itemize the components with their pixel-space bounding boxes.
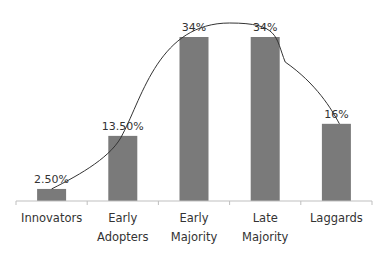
value-label: 34% — [253, 21, 277, 34]
bar-innovators — [37, 189, 66, 201]
adoption-bar-chart: 2.50%13.50%34%34%16% InnovatorsEarlyAdop… — [0, 0, 385, 254]
category-label: Late — [253, 211, 278, 225]
value-label: 2.50% — [34, 173, 69, 186]
bar-early-adopters — [108, 136, 137, 201]
category-label: Early — [179, 211, 208, 225]
category-label: Majority — [242, 230, 289, 244]
category-label: Majority — [171, 230, 218, 244]
value-label: 16% — [324, 108, 348, 121]
category-label: Early — [108, 211, 137, 225]
bars — [37, 37, 351, 201]
bar-late-majority — [251, 37, 280, 201]
value-label: 34% — [182, 21, 206, 34]
category-label: Adopters — [97, 230, 149, 244]
value-label: 13.50% — [102, 120, 144, 133]
bar-laggards — [322, 124, 351, 201]
category-labels: InnovatorsEarlyAdoptersEarlyMajorityLate… — [21, 211, 363, 244]
bar-early-majority — [180, 37, 209, 201]
category-label: Innovators — [21, 211, 82, 225]
x-axis-ticks — [16, 201, 372, 205]
category-label: Laggards — [310, 211, 363, 225]
